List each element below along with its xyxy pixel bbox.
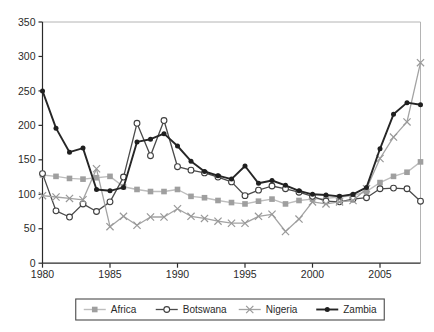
data-point [80,176,86,182]
y-tick-label: 300 [18,50,36,62]
data-point [188,194,194,200]
data-point [135,139,140,144]
y-tick-label: 50 [24,222,36,234]
data-point [310,192,315,197]
data-point [161,189,167,195]
data-point [53,174,59,180]
data-point [404,169,410,175]
data-point [295,215,302,222]
x-tick-label: 2005 [368,268,392,280]
data-point [391,112,396,117]
data-point [175,144,180,149]
data-point [256,181,261,186]
data-point [121,185,126,190]
data-point [377,180,383,186]
series-line-nigeria [43,63,421,232]
data-point [148,189,154,195]
data-point [229,177,234,182]
data-point [202,169,207,174]
y-tick-label: 150 [18,153,36,165]
legend-label-africa: Africa [111,304,137,315]
data-point [243,164,248,169]
data-point [256,198,262,204]
data-point [364,195,370,201]
x-tick-label: 1990 [166,268,190,280]
data-point [133,222,140,229]
data-point [94,209,100,215]
data-point [404,186,410,192]
data-point [174,205,181,212]
data-point [256,187,262,193]
legend-marker-botswana-icon [164,307,170,313]
data-point [108,188,113,193]
data-point [229,200,235,206]
line-chart-figure: 0501001502002503003501980198519901995200… [0,0,434,332]
data-point [270,178,275,183]
data-point [175,187,181,193]
y-tick-label: 100 [18,188,36,200]
data-point [391,174,397,180]
data-point [216,173,221,178]
data-point [324,192,329,197]
data-point [269,196,275,202]
legend-label-nigeria: Nigeria [266,304,298,315]
data-point [148,153,154,159]
data-point [94,187,99,192]
data-point [107,199,113,205]
data-point [405,100,410,105]
data-point [418,159,424,165]
data-point [54,126,59,131]
data-point [242,193,248,199]
data-point [189,159,194,164]
x-tick-label: 1985 [98,268,122,280]
data-point [134,120,140,126]
data-point [390,133,397,140]
legend: AfricaBotswanaNigeriaZambia [76,299,385,320]
data-point [40,171,46,177]
y-tick-label: 350 [18,16,36,28]
y-tick-label: 0 [30,257,36,269]
legend-marker-zambia-icon [325,307,330,312]
data-point [283,183,288,188]
data-point [188,167,194,173]
data-point [107,174,113,180]
x-tick-label: 2000 [301,268,325,280]
data-point [134,187,140,193]
data-point [161,118,167,124]
data-point [40,88,45,93]
x-tick-label: 1995 [233,268,257,280]
data-point [418,198,424,204]
data-point [296,198,302,204]
data-point [215,198,221,204]
data-point [67,176,73,182]
data-point [391,185,397,191]
data-point [418,102,423,107]
legend-label-botswana: Botswana [183,304,227,315]
data-point [175,164,181,170]
x-tick-label: 1980 [31,268,55,280]
data-point [337,194,342,199]
data-point [81,146,86,151]
data-point [120,213,127,220]
data-point [67,214,73,220]
data-point [148,137,153,142]
data-point [351,192,356,197]
data-point [378,146,383,151]
y-tick-label: 250 [18,85,36,97]
data-point [202,195,208,201]
legend-label-zambia: Zambia [343,304,377,315]
data-point [283,201,289,207]
data-point [269,183,275,189]
chart-canvas: 0501001502002503003501980198519901995200… [0,0,434,332]
data-point [377,186,383,192]
legend-marker-africa-icon [92,307,98,313]
data-point [162,131,167,136]
data-point [242,201,248,207]
data-point [53,208,59,214]
y-tick-label: 200 [18,119,36,131]
data-point [282,228,289,235]
data-point [297,188,302,193]
data-point [67,150,72,155]
data-point [364,185,369,190]
